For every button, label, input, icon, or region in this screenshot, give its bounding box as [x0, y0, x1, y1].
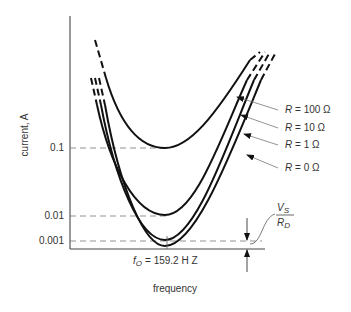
label-r-1: R = 1 Ω: [285, 139, 320, 150]
curves: [91, 40, 276, 246]
leader-r-10: [241, 115, 278, 128]
ytick-0.001: 0.001: [39, 235, 64, 246]
annotation-curve: [250, 214, 275, 244]
annotation-denominator: RD: [277, 217, 290, 230]
resonant-frequency-label: fO= 159.2 H Z: [133, 255, 198, 268]
series-labels: R = 100 Ω R = 10 Ω R = 1 Ω R = 0 Ω: [285, 104, 331, 173]
label-r-100: R = 100 Ω: [285, 104, 331, 115]
ytick-0.1: 0.1: [50, 142, 64, 153]
reference-lines: [70, 148, 262, 241]
resonance-chart: 0.1 0.01 0.001 current, A: [0, 0, 351, 312]
y-axis-label: current, A: [19, 113, 30, 156]
leader-r-0: [247, 155, 278, 168]
label-r-0: R = 0 Ω: [285, 162, 320, 173]
curve-r-100: [95, 40, 260, 148]
curve-r-1: [95, 52, 270, 240]
x-axis-label: frequency: [153, 283, 197, 294]
y-tick-labels: 0.1 0.01 0.001: [39, 142, 64, 246]
annotation-numerator: VS: [277, 202, 290, 215]
ytick-0.01: 0.01: [45, 210, 65, 221]
vs-rd-annotation: VS RD: [247, 202, 294, 272]
label-r-10: R = 10 Ω: [285, 122, 326, 133]
curve-r-0: [99, 52, 276, 246]
leader-r-1: [244, 134, 278, 145]
